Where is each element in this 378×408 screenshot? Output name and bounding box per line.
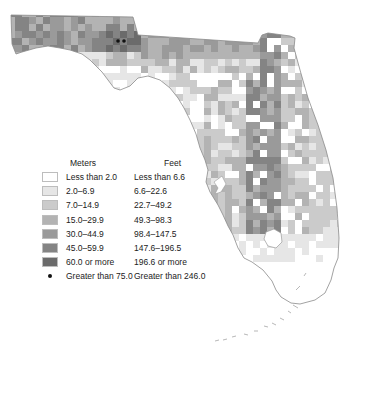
legend-meters-label: 45.0–59.9 — [66, 243, 104, 253]
legend-feet-label: 6.6–22.6 — [134, 186, 167, 196]
legend-header: Meters Feet — [42, 158, 232, 171]
legend-swatch — [42, 200, 58, 210]
legend-swatch — [42, 243, 58, 253]
legend-feet-label: 22.7–49.2 — [134, 200, 172, 210]
legend-swatch — [42, 172, 58, 182]
legend-row: 2.0–6.96.6–22.6 — [42, 185, 232, 199]
legend-meters-label: 7.0–14.9 — [66, 200, 99, 210]
high-point-marker — [116, 39, 120, 43]
legend-meters-label: 2.0–6.9 — [66, 186, 94, 196]
legend-row: 15.0–29.949.3–98.3 — [42, 214, 232, 228]
legend-row: 30.0–44.998.4–147.5 — [42, 228, 232, 242]
legend-header-feet: Feet — [164, 158, 181, 168]
legend-header-meters: Meters — [70, 158, 96, 168]
legend-feet-label: 98.4–147.5 — [134, 229, 177, 239]
legend-row: Less than 2.0Less than 6.6 — [42, 171, 232, 185]
legend-row-point: Greater than 75.0Greater than 246.0 — [42, 270, 232, 284]
legend-row: 7.0–14.922.7–49.2 — [42, 199, 232, 213]
legend-meters-label: Less than 2.0 — [66, 172, 117, 182]
legend-row: 45.0–59.9147.6–196.5 — [42, 242, 232, 256]
legend-feet-label: 147.6–196.5 — [134, 243, 181, 253]
legend-meters-label: Greater than 75.0 — [66, 271, 133, 281]
legend-row: 60.0 or more196.6 or more — [42, 256, 232, 270]
legend-swatch — [42, 215, 58, 225]
legend-feet-label: 49.3–98.3 — [134, 215, 172, 225]
legend-feet-label: Less than 6.6 — [134, 172, 185, 182]
legend-meters-label: 30.0–44.9 — [66, 229, 104, 239]
legend: Meters Feet Less than 2.0Less than 6.6 2… — [42, 158, 232, 285]
legend-meters-label: 15.0–29.9 — [66, 215, 104, 225]
legend-feet-label: 196.6 or more — [134, 257, 187, 267]
legend-feet-label: Greater than 246.0 — [134, 271, 205, 281]
high-point-dot-icon — [48, 274, 52, 278]
high-point-marker — [122, 39, 126, 43]
legend-swatch — [42, 257, 58, 267]
legend-meters-label: 60.0 or more — [66, 257, 114, 267]
legend-swatch — [42, 229, 58, 239]
legend-swatch — [42, 186, 58, 196]
